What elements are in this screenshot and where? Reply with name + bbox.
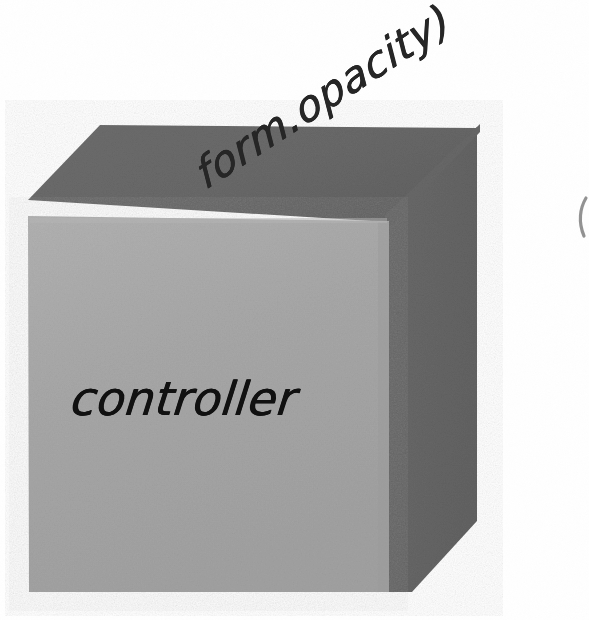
partial-ink-stroke: [580, 198, 586, 236]
front-face-top-highlight: [30, 218, 387, 223]
sketch-canvas: controller form.opacity): [0, 0, 589, 620]
cube-front-face-group: [28, 216, 389, 592]
front-face-edge-shadow: [378, 222, 389, 592]
front-face: [28, 216, 389, 592]
cube-illustration: [0, 0, 589, 620]
